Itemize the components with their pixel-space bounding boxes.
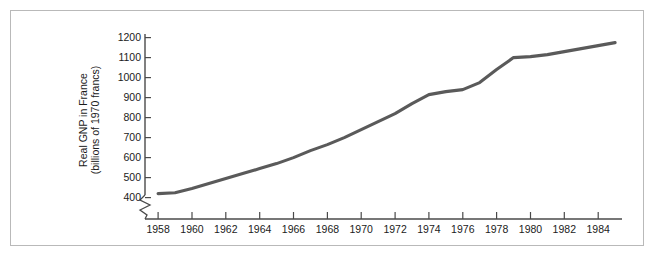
x-tick-label: 1982 — [553, 223, 577, 235]
y-axis-title-line2: (billions of 1970 francs) — [89, 66, 101, 175]
y-tick-label: 1200 — [118, 31, 142, 43]
y-tick-label: 900 — [123, 91, 141, 103]
x-tick-label: 1962 — [214, 223, 238, 235]
y-tick-label: 1000 — [118, 71, 142, 83]
chart-figure: Real GNP in France (billions of 1970 fra… — [0, 0, 656, 259]
y-tick-label: 700 — [123, 131, 141, 143]
x-tick-label: 1958 — [146, 223, 170, 235]
y-tick-label: 400 — [123, 191, 141, 203]
gnp-series-line — [158, 43, 615, 194]
x-tick-label: 1966 — [282, 223, 306, 235]
x-tick-group — [158, 212, 598, 219]
x-tick-label: 1964 — [248, 223, 272, 235]
x-tick-label: 1978 — [485, 223, 509, 235]
x-tick-label: 1972 — [383, 223, 407, 235]
line-chart: Real GNP in France (billions of 1970 fra… — [0, 0, 656, 259]
x-tick-label: 1974 — [417, 223, 441, 235]
y-axis-title-line1: Real GNP in France — [77, 73, 89, 167]
y-tick-group — [145, 38, 151, 198]
x-tick-label: 1968 — [316, 223, 340, 235]
x-tick-label: 1976 — [451, 223, 475, 235]
x-tick-label: 1960 — [180, 223, 204, 235]
x-tick-label: 1970 — [350, 223, 374, 235]
x-tick-label: 1984 — [587, 223, 611, 235]
y-tick-label: 500 — [123, 171, 141, 183]
y-axis-break-icon — [140, 195, 150, 219]
x-tick-label: 1980 — [519, 223, 543, 235]
y-tick-label: 800 — [123, 111, 141, 123]
y-tick-label: 1100 — [118, 51, 141, 63]
y-tick-label: 600 — [123, 151, 141, 163]
